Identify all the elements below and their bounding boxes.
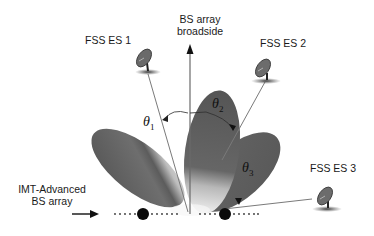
satellite-dish-icon [251, 56, 281, 84]
array-element-right [219, 208, 231, 220]
array-element-left [137, 208, 149, 220]
theta1-label: θ1 [143, 114, 154, 132]
theta1-arc [165, 111, 188, 119]
array-label-line1: IMT-Advanced [14, 183, 90, 195]
theta1-arrowhead [162, 115, 168, 122]
array-pointer-arrow [72, 210, 99, 218]
theta2-label: θ2 [212, 96, 223, 114]
fss-es-3-label: FSS ES 3 [310, 162, 356, 174]
theta3-label: θ3 [242, 160, 253, 178]
broadside-label-line1: BS array [170, 13, 230, 25]
fss-es-1-label: FSS ES 1 [85, 34, 131, 46]
broadside-label-line2: broadside [170, 25, 230, 37]
array-label-line2: BS array [14, 195, 90, 207]
satellite-dish-icon [133, 46, 161, 75]
array-label: IMT-Advanced BS array [14, 183, 90, 207]
broadside-label: BS array broadside [170, 13, 230, 37]
fss-es-2-label: FSS ES 2 [260, 37, 306, 49]
satellite-dish-icon [312, 184, 342, 212]
